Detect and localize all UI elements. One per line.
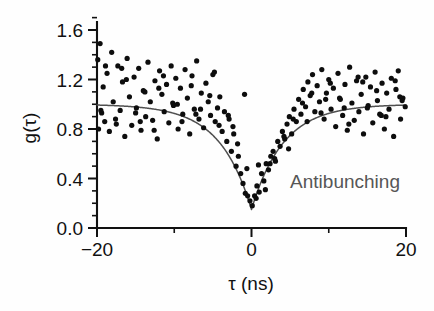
data-point: [310, 72, 315, 77]
data-point: [111, 99, 116, 104]
data-point: [109, 50, 114, 55]
data-point: [280, 129, 285, 134]
data-point: [322, 117, 327, 122]
data-point: [391, 134, 396, 139]
data-point: [317, 99, 322, 104]
data-point: [300, 100, 305, 105]
data-point: [157, 68, 162, 73]
data-point: [373, 69, 378, 74]
data-point: [315, 83, 320, 88]
y-tick-label: 0.4: [57, 169, 84, 190]
data-point: [318, 110, 323, 115]
data-point: [215, 105, 220, 110]
data-point: [267, 161, 272, 166]
data-point: [206, 99, 211, 104]
data-point: [189, 73, 194, 78]
data-point: [170, 100, 175, 105]
data-point: [347, 65, 352, 70]
data-point: [345, 128, 350, 133]
data-point: [301, 87, 306, 92]
data-point: [201, 125, 206, 130]
data-point: [256, 162, 261, 167]
y-tick-label: 0.8: [57, 119, 83, 140]
data-point: [384, 91, 389, 96]
data-point: [254, 183, 259, 188]
data-point: [148, 99, 153, 104]
data-point: [127, 94, 132, 99]
data-point: [145, 60, 150, 65]
data-point: [337, 95, 342, 100]
data-point: [152, 128, 157, 133]
data-point: [365, 105, 370, 110]
data-point: [242, 92, 247, 97]
data-point: [333, 124, 338, 129]
data-point: [166, 120, 171, 125]
data-point: [342, 105, 347, 110]
data-point: [319, 67, 324, 72]
data-point: [122, 134, 127, 139]
data-point: [281, 134, 286, 139]
data-point: [222, 109, 227, 114]
data-point: [164, 82, 169, 87]
x-axis-title: τ (ns): [228, 273, 274, 294]
data-point: [107, 129, 112, 134]
data-point: [291, 107, 296, 112]
data-point: [173, 76, 178, 81]
data-point: [155, 136, 160, 141]
data-point: [266, 167, 271, 172]
data-point: [238, 171, 243, 176]
data-point: [340, 113, 345, 118]
data-point: [403, 104, 408, 109]
data-point: [346, 121, 351, 126]
data-point: [383, 114, 388, 119]
y-tick-label: 1.2: [57, 70, 83, 91]
figure-container: 0.00.40.81.21.6 −20020 Antibunching τ (n…: [0, 0, 434, 311]
data-point: [245, 193, 250, 198]
data-point: [220, 129, 225, 134]
data-point: [398, 117, 403, 122]
data-point: [375, 98, 380, 103]
data-point: [305, 79, 310, 84]
data-point: [176, 126, 181, 131]
antibunching-scatter-plot: 0.00.40.81.21.6 −20020 Antibunching τ (n…: [0, 0, 434, 311]
data-point: [230, 124, 235, 129]
data-point: [370, 120, 375, 125]
data-point: [286, 146, 291, 151]
data-point: [152, 78, 157, 83]
data-point: [178, 86, 183, 91]
data-point: [124, 77, 129, 82]
data-point: [298, 112, 303, 117]
data-point: [97, 41, 102, 46]
data-point: [229, 149, 234, 154]
data-point: [224, 139, 229, 144]
data-point: [142, 89, 147, 94]
data-point: [331, 86, 336, 91]
data-point: [396, 68, 401, 73]
data-point: [185, 95, 190, 100]
data-point: [359, 92, 364, 97]
data-point: [250, 203, 255, 208]
data-point: [213, 119, 218, 124]
data-point: [263, 187, 268, 192]
data-point: [118, 108, 123, 113]
data-point: [356, 109, 361, 114]
data-point: [208, 113, 213, 118]
data-point: [284, 121, 289, 126]
data-point: [363, 74, 368, 79]
data-point: [207, 93, 212, 98]
data-point: [114, 121, 119, 126]
data-point: [198, 107, 203, 112]
data-point: [244, 166, 249, 171]
data-point: [102, 119, 107, 124]
data-point: [342, 82, 347, 87]
y-tick-label: 1.6: [57, 20, 83, 41]
data-point: [272, 156, 277, 161]
data-point: [393, 87, 398, 92]
data-point: [189, 83, 194, 88]
data-point: [194, 58, 199, 63]
y-axis-title: g(τ): [19, 113, 40, 144]
data-point: [259, 171, 264, 176]
data-point: [323, 97, 328, 102]
data-point: [98, 108, 103, 113]
data-point: [393, 78, 398, 83]
